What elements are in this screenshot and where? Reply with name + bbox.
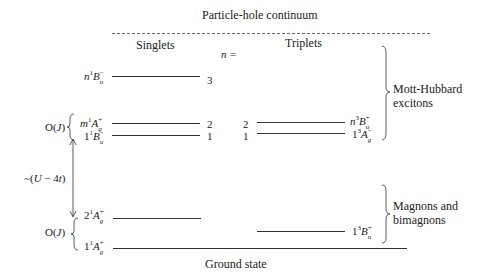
level-label-13Ag-: 13A−g	[352, 128, 374, 140]
singlet-level-m1Ag	[112, 123, 200, 124]
triplet-level-13Ag	[257, 133, 345, 134]
magnons-brace-icon	[380, 184, 392, 244]
ground-state-level	[113, 248, 407, 249]
gap-double-arrow-icon	[68, 138, 78, 218]
oj-lower-label: O(J)	[45, 226, 65, 238]
ground-state-label: Ground state	[205, 258, 267, 270]
n-value-triplet-2: 2	[243, 118, 249, 130]
level-label-13Bu+: 13B+u	[352, 225, 374, 237]
triplets-heading: Triplets	[285, 37, 322, 49]
singlet-level-21Ag	[113, 218, 201, 219]
level-label-21Ag+: 21A+g	[84, 209, 106, 221]
mott-hubbard-brace-icon	[380, 45, 392, 141]
level-label-11Ag+: 11A+g	[84, 240, 106, 252]
gap-label: ~(U − 4t)	[24, 172, 66, 184]
triplet-level-13Bu	[257, 231, 345, 232]
singlet-level-11Bu	[112, 135, 200, 136]
n-value-triplet-1: 1	[243, 130, 249, 142]
upper-left-brace-icon	[66, 113, 76, 141]
lower-left-brace-icon	[70, 217, 80, 251]
n-label: n =	[221, 48, 237, 60]
singlet-level-n1Bu	[112, 76, 200, 77]
singlets-heading: Singlets	[136, 39, 175, 51]
n-value-3: 3	[207, 74, 213, 86]
oj-upper-label: O(J)	[45, 121, 65, 133]
mott-hubbard-label-line1: Mott-Hubbard	[393, 83, 462, 95]
level-label-n1Bu-: n1B−u	[84, 70, 106, 82]
level-label-11Bu-: 11B−u	[84, 130, 106, 142]
mott-hubbard-label-line2: excitons	[393, 97, 433, 109]
n-value-1: 1	[207, 130, 213, 142]
continuum-boundary-line	[112, 33, 430, 34]
continuum-title: Particle-hole continuum	[202, 9, 318, 21]
magnons-label-line2: bimagnons	[393, 214, 446, 226]
n-value-2: 2	[207, 118, 213, 130]
triplet-level-n3Bu	[257, 122, 345, 123]
magnons-label-line1: Magnons and	[393, 200, 458, 212]
